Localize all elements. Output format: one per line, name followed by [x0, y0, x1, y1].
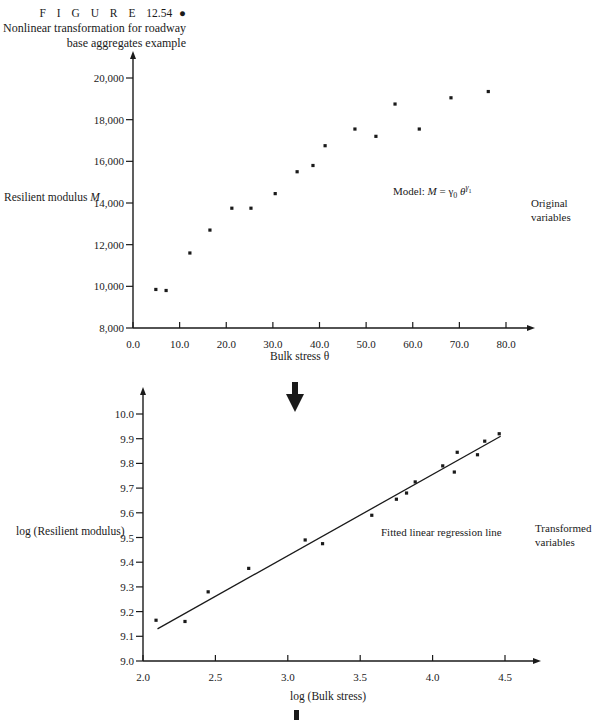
- fitted-line-annotation: Fitted linear regression line: [381, 525, 502, 539]
- lower-x-axis-label-text: log (Bulk stress): [290, 690, 366, 702]
- lower-y-tick-label: 10.0: [115, 408, 135, 420]
- upper-data-point: [311, 164, 314, 167]
- upper-data-point: [154, 288, 157, 291]
- upper-data-point: [188, 251, 191, 254]
- lower-x-tick-label: 2.5: [209, 671, 223, 683]
- lower-x-tick-label: 4.0: [426, 671, 440, 683]
- lower-x-tick-label: 3.5: [353, 671, 367, 683]
- lower-y-axis-label-text: log (Resilient modulus): [16, 525, 125, 537]
- upper-x-tick-label: 60.0: [403, 338, 423, 350]
- upper-x-axis-arrow-icon: [527, 325, 535, 331]
- lower-y-tick-label: 9.4: [120, 556, 134, 568]
- upper-y-tick-label: 12,000: [94, 239, 125, 251]
- original-line-1: Original: [531, 196, 571, 210]
- lower-data-point: [498, 432, 501, 435]
- lower-y-axis-arrow-icon: [140, 387, 146, 395]
- upper-x-axis-label: Bulk stress θ: [270, 349, 329, 363]
- lower-data-point: [405, 491, 408, 494]
- lower-data-point: [207, 590, 210, 593]
- upper-x-tick-label: 50.0: [357, 338, 377, 350]
- lower-data-point: [453, 470, 456, 473]
- lower-data-point: [441, 464, 444, 467]
- upper-data-point: [449, 96, 452, 99]
- lower-y-tick-label: 9.0: [120, 655, 134, 667]
- upper-data-point: [374, 135, 377, 138]
- lower-data-point: [247, 567, 250, 570]
- lower-data-point: [395, 498, 398, 501]
- upper-x-tick-label: 20.0: [217, 338, 237, 350]
- model-annotation: Model: M = γ0 θγ1: [393, 181, 472, 203]
- lower-x-axis-label: log (Bulk stress): [290, 689, 366, 703]
- lower-y-tick-label: 9.2: [120, 606, 134, 618]
- lower-y-tick-label: 9.3: [120, 581, 134, 593]
- lower-y-tick-label: 9.7: [120, 482, 134, 494]
- upper-data-point: [323, 144, 326, 147]
- upper-data-point: [418, 127, 421, 130]
- upper-data-point: [353, 127, 356, 130]
- model-text: Model:: [393, 185, 428, 197]
- model-eq: = γ: [437, 185, 454, 197]
- upper-y-axis-label-text: Resilient modulus M: [4, 191, 100, 203]
- lower-data-point: [183, 620, 186, 623]
- lower-y-axis-label: log (Resilient modulus): [16, 524, 125, 538]
- lower-x-tick-label: 3.0: [281, 671, 295, 683]
- lower-data-point: [321, 542, 324, 545]
- lower-data-point: [476, 453, 479, 456]
- down-arrow-2-shaft: [294, 710, 299, 720]
- upper-x-axis-label-text: Bulk stress θ: [270, 350, 329, 362]
- upper-data-point: [296, 170, 299, 173]
- lower-data-point: [414, 480, 417, 483]
- lower-data-point: [483, 440, 486, 443]
- lower-data-point: [456, 451, 459, 454]
- upper-data-point: [208, 228, 211, 231]
- down-arrow-icon: [286, 394, 304, 412]
- lower-data-point: [154, 619, 157, 622]
- upper-data-point: [487, 90, 490, 93]
- original-line-2: variables: [531, 210, 571, 224]
- lower-x-tick-label: 4.5: [498, 671, 512, 683]
- original-variables-label: Original variables: [531, 196, 571, 224]
- upper-y-tick-label: 18,000: [94, 114, 125, 126]
- upper-data-point: [274, 192, 277, 195]
- model-sup-sub: 1: [469, 188, 472, 194]
- lower-data-point: [370, 514, 373, 517]
- lower-x-axis-arrow-icon: [533, 658, 541, 664]
- lower-x-tick-label: 2.0: [136, 671, 150, 683]
- upper-x-tick-label: 70.0: [450, 338, 470, 350]
- upper-y-tick-label: 8,000: [99, 322, 124, 334]
- upper-y-tick-label: 20,000: [94, 72, 125, 84]
- upper-x-tick-label: 80.0: [496, 338, 516, 350]
- transformed-variables-label: Transformed variables: [535, 521, 591, 549]
- upper-data-point: [393, 102, 396, 105]
- upper-x-tick-label: 0.0: [126, 338, 140, 350]
- upper-y-axis-label: Resilient modulus M: [4, 190, 100, 204]
- upper-y-axis-arrow-icon: [130, 51, 136, 59]
- upper-data-point: [165, 289, 168, 292]
- lower-y-tick-label: 9.9: [120, 433, 134, 445]
- upper-y-tick-label: 16,000: [94, 155, 125, 167]
- lower-y-tick-label: 9.8: [120, 457, 134, 469]
- upper-x-tick-label: 10.0: [170, 338, 190, 350]
- fitted-line-text: Fitted linear regression line: [381, 526, 502, 538]
- upper-data-point: [230, 207, 233, 210]
- upper-y-tick-label: 10,000: [94, 280, 125, 292]
- lower-y-tick-label: 9.1: [120, 630, 134, 642]
- upper-data-point: [249, 207, 252, 210]
- transformed-line-2: variables: [535, 535, 591, 549]
- model-m: M: [428, 185, 437, 197]
- lower-y-tick-label: 9.6: [120, 507, 134, 519]
- lower-data-point: [304, 538, 307, 541]
- transformed-line-1: Transformed: [535, 521, 591, 535]
